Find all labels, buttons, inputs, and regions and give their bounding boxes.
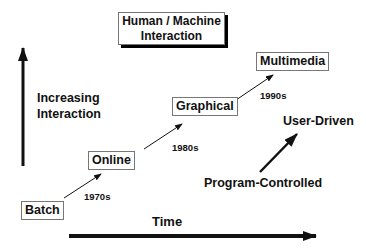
transition-1980s: 1980s: [172, 142, 198, 153]
arrow-program-user: [260, 134, 297, 172]
title-line-2: Interaction: [119, 29, 224, 44]
y-axis-label: Increasing Interaction: [37, 90, 101, 122]
stage-multimedia: Multimedia: [256, 52, 329, 71]
transition-1990s: 1990s: [260, 90, 286, 101]
stage-online: Online: [88, 151, 135, 170]
stage-graphical: Graphical: [172, 97, 238, 116]
program-controlled-label: Program-Controlled: [204, 176, 322, 190]
diagram-title: Human / Machine Interaction: [118, 12, 225, 45]
title-line-1: Human / Machine: [119, 14, 224, 29]
stage-batch: Batch: [21, 201, 64, 220]
y-axis-label-line-2: Interaction: [37, 106, 101, 122]
time-axis-label: Time: [152, 214, 182, 229]
user-driven-label: User-Driven: [283, 114, 354, 128]
y-axis-label-line-1: Increasing: [37, 90, 101, 106]
transition-1970s: 1970s: [84, 191, 110, 202]
